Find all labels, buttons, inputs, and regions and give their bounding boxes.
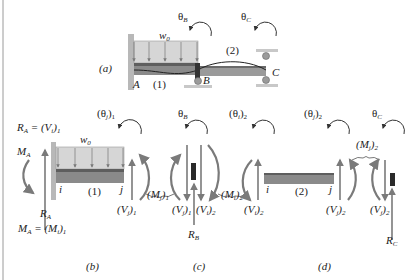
point-c-label: C	[272, 66, 280, 78]
mj2-moment-arrow-c-side	[372, 160, 380, 200]
vi2-label-c: (Vi)2	[196, 203, 216, 217]
theta-i2-label: (θi)2	[229, 107, 248, 121]
caption-d: (d)	[318, 260, 331, 273]
vj1-label-c: (Vj)1	[172, 203, 192, 217]
ma-moment-arrow	[23, 160, 33, 193]
support-c-block	[390, 173, 395, 186]
point-a-label: A	[132, 78, 140, 90]
theta-c-label: θC	[241, 10, 251, 24]
theta-c-arrow	[255, 22, 276, 36]
member-2-label-d: (2)	[295, 185, 308, 198]
node-j-label-d: j	[327, 183, 332, 195]
caption-a: (a)	[99, 62, 112, 75]
theta-c-label-d: θC	[372, 107, 382, 121]
roller-support-c-top	[263, 53, 270, 60]
ra-label: RA	[39, 207, 52, 221]
vi2-label-d: (Vi)2	[244, 203, 264, 217]
ma-equation: MA = (Mi)1	[17, 222, 66, 236]
rc-label: RC	[385, 234, 398, 248]
load-label: w0	[159, 29, 170, 43]
theta-j1-arrow	[119, 120, 141, 134]
roller-support-b	[195, 78, 202, 85]
ma-label: MA	[16, 145, 31, 159]
theta-b-label: θB	[178, 10, 188, 24]
mi2-moment-arrow-d	[243, 160, 252, 200]
panel-d: (θi)2 i (2) j (Vi)2 (θj)2 θC (Mj)2 (Vj)2…	[229, 107, 404, 273]
panel-c: (Mj)1 θB (Vj)1 (Vi)2 RB (Mi)2 (c)	[146, 107, 246, 273]
theta-i2-arrow	[253, 120, 274, 134]
mj2-label: (Mj)2	[356, 138, 378, 152]
support-b-block	[191, 163, 196, 180]
mj1-label: (Mj)1	[147, 188, 169, 202]
ra-equation: RA = (Vi)1	[16, 121, 60, 135]
caption-c: (c)	[193, 260, 206, 273]
point-b-label: B	[203, 74, 210, 86]
beam-analysis-figure: w0 θB θC (2) A (1) B C (a) RA = (Vi)1 MA…	[0, 0, 419, 280]
mi2-label: (Mi)2	[221, 188, 243, 202]
theta-c-arrow-d	[383, 120, 404, 134]
rb-label: RB	[187, 228, 200, 242]
caption-b: (b)	[86, 260, 99, 273]
panel-a: w0 θB θC (2) A (1) B C (a)	[99, 10, 280, 91]
theta-b-label-c: θB	[178, 107, 188, 121]
vj2-label-d: (Vj)2	[326, 203, 346, 217]
node-j-label: j	[118, 183, 123, 195]
roller-support-c-bottom	[263, 77, 270, 84]
mj2-brace	[352, 157, 380, 161]
mj2-moment-arrow-d	[348, 160, 356, 200]
theta-j2-label: (θj)2	[304, 107, 323, 121]
vj1-label: (Vj)1	[117, 203, 137, 217]
mi2-moment-arrow-c	[208, 145, 219, 200]
theta-j2-arrow	[328, 120, 349, 134]
panel-b: RA = (Vi)1 MA w0 i (1) j RA MA = (Mi)1 (…	[16, 107, 149, 273]
distributed-load	[134, 41, 198, 63]
member-2-label: (2)	[226, 44, 239, 57]
node-i-label: i	[59, 183, 62, 195]
mj1-moment-arrow-c	[171, 155, 180, 200]
distributed-load-b	[56, 147, 124, 169]
member-1-label-b: (1)	[88, 185, 101, 198]
node-i-label-d: i	[266, 183, 269, 195]
vj2-label-c-side: (Vj)2	[370, 203, 390, 217]
load-label-b: w0	[80, 133, 91, 147]
member-1-label: (1)	[153, 78, 166, 91]
theta-b-arrow-c	[186, 120, 207, 134]
theta-b-arrow	[190, 22, 211, 36]
theta-j1-label: (θj)1	[97, 107, 116, 121]
